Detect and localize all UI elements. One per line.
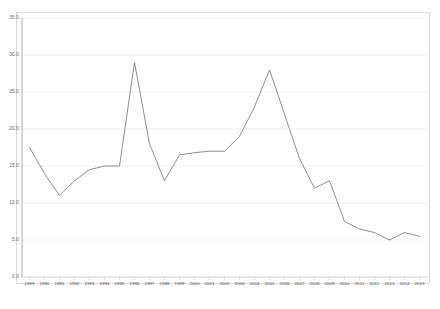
y-tick-label: 25.0 bbox=[3, 89, 19, 94]
series-line bbox=[30, 62, 420, 240]
y-tick-label: 30.0 bbox=[3, 52, 19, 57]
line-chart-plot bbox=[0, 0, 440, 309]
y-tick-label: 5.0 bbox=[3, 237, 19, 242]
y-tick-label: 15.0 bbox=[3, 163, 19, 168]
y-tick-label: 0.0 bbox=[3, 274, 19, 279]
y-tick-label: 20.0 bbox=[3, 126, 19, 131]
x-tick-label: 2015 bbox=[410, 281, 430, 286]
y-tick-label: 10.0 bbox=[3, 200, 19, 205]
chart-container: 0.05.010.015.020.025.030.035.0 198919901… bbox=[0, 0, 440, 309]
data-series bbox=[30, 62, 420, 240]
gridlines bbox=[22, 18, 427, 277]
y-tick-label: 35.0 bbox=[3, 15, 19, 20]
